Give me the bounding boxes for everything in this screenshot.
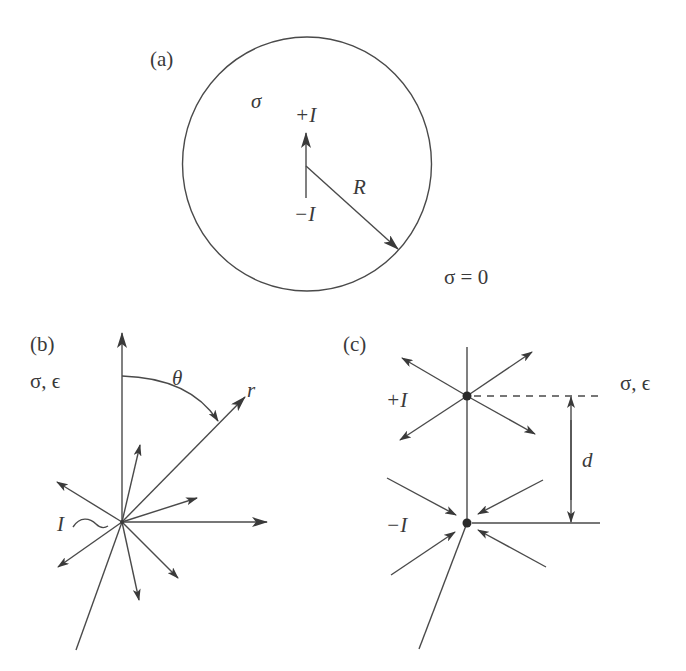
ac-source-tilde-icon <box>73 519 108 528</box>
physics-figure: (a) σ +I −I R σ = 0 (b) σ, ϵ r θ I <box>0 0 686 671</box>
inward-arrow <box>478 530 546 567</box>
inside-conductivity-label: σ <box>251 89 263 113</box>
outward-arrow <box>467 352 532 396</box>
field-arrow <box>122 522 139 600</box>
outward-arrow <box>402 358 467 396</box>
outside-conductivity-label: σ = 0 <box>444 265 488 289</box>
theta-label: θ <box>172 366 182 390</box>
outward-arrow <box>467 396 535 434</box>
field-arrow <box>122 522 178 578</box>
radius-label: R <box>352 175 366 199</box>
medium-label-b: σ, ϵ <box>30 369 61 393</box>
source-plus-label-c: +I <box>386 388 408 412</box>
panel-c: (c) σ, ϵ +I −I d <box>343 332 651 649</box>
panel-c-label: (c) <box>343 332 366 356</box>
inward-arrow <box>478 480 543 514</box>
field-arrow <box>57 482 122 522</box>
conducting-sphere-outline <box>183 37 432 291</box>
panel-b: (b) σ, ϵ r θ I <box>30 332 267 650</box>
outward-arrow <box>400 396 467 440</box>
source-minus-label: −I <box>294 202 316 226</box>
panel-a: (a) σ +I −I R σ = 0 <box>150 37 488 291</box>
radial-label: r <box>247 378 256 402</box>
negative-source-dot <box>463 519 472 528</box>
theta-arc-arrow <box>122 376 218 421</box>
current-label: I <box>56 512 65 536</box>
field-arrow <box>58 522 122 567</box>
inward-arrow <box>391 532 455 575</box>
radial-direction-arrow <box>122 397 245 522</box>
medium-label-c: σ, ϵ <box>620 371 651 395</box>
source-minus-label-c: −I <box>386 513 408 537</box>
panel-a-label: (a) <box>150 47 173 71</box>
separation-label: d <box>582 448 593 472</box>
radius-arrow <box>306 166 398 249</box>
source-plus-label: +I <box>295 103 317 127</box>
tail-line <box>76 522 122 650</box>
source-point <box>120 520 124 524</box>
tail-line <box>419 523 467 649</box>
inward-arrow <box>387 478 456 515</box>
positive-source-dot <box>463 392 472 401</box>
field-arrow <box>122 445 140 522</box>
panel-b-label: (b) <box>30 332 55 356</box>
